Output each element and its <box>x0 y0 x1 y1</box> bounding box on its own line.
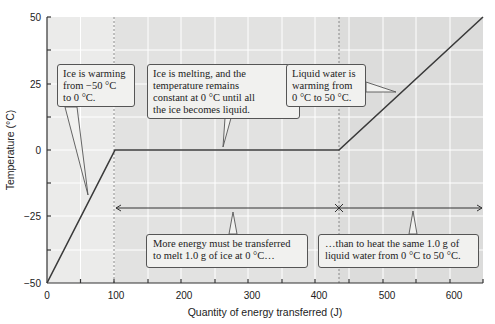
callout-line: Ice is melting, and the <box>153 68 294 80</box>
callout-melt-energy: More energy must be transferred to melt … <box>146 234 308 268</box>
callout-line: …than to heat the same 1.0 g of <box>325 238 473 250</box>
callout-line: Ice is warming <box>63 68 129 80</box>
callout-line: from −50 °C <box>63 80 129 92</box>
callout-line: More energy must be transferred <box>153 238 302 250</box>
callout-water-warming: Liquid water is warming from 0 °C to 50 … <box>286 64 366 107</box>
x-axis-title: Quantity of energy transferred (J) <box>188 306 343 318</box>
callout-ice-warming: Ice is warming from −50 °C to 0 °C. <box>57 64 135 107</box>
y-tick-label: −50 <box>24 278 41 289</box>
callout-line: liquid water from 0 °C to 50 °C. <box>325 250 473 262</box>
y-tick-label: 0 <box>35 145 41 156</box>
y-tick-label: −25 <box>24 211 41 222</box>
callout-line: temperature remains <box>153 80 294 92</box>
callout-heat-energy: …than to heat the same 1.0 g of liquid w… <box>318 234 479 268</box>
callout-line: the ice becomes liquid. <box>153 104 294 116</box>
x-tick-label: 400 <box>311 290 328 301</box>
x-tick-label: 100 <box>108 290 125 301</box>
heating-curve-chart: 50 25 0 −25 −50 0 100 200 300 400 500 60… <box>0 0 495 324</box>
x-tick-label: 200 <box>176 290 193 301</box>
callout-line: to melt 1.0 g of ice at 0 °C… <box>153 250 302 262</box>
y-tick-label: 25 <box>30 79 42 90</box>
callout-ice-melting: Ice is melting, and the temperature rema… <box>147 64 300 119</box>
y-axis-title: Temperature (°C) <box>4 110 16 191</box>
y-tick-label: 50 <box>30 12 42 23</box>
callout-line: constant at 0 °C until all <box>153 92 294 104</box>
callout-line: warming from <box>292 80 360 92</box>
x-tick-label: 600 <box>446 290 463 301</box>
callout-line: to 0 °C. <box>63 92 129 104</box>
callout-line: 0 °C to 50 °C. <box>292 92 360 104</box>
x-tick-label: 300 <box>244 290 261 301</box>
callout-line: Liquid water is <box>292 68 360 80</box>
x-tick-label: 0 <box>44 290 50 301</box>
x-tick-label: 500 <box>379 290 396 301</box>
